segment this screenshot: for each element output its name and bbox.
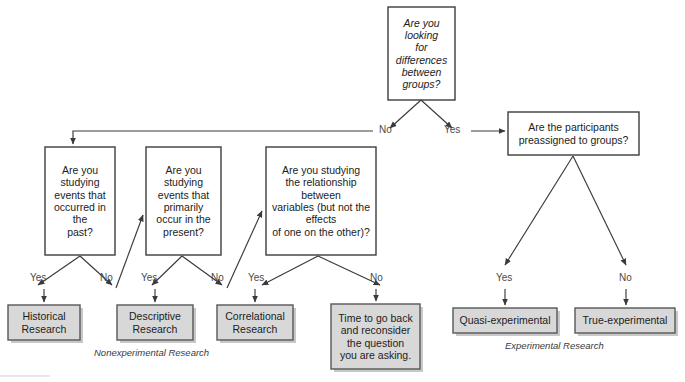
- edge-label-preassigned-no: No: [619, 272, 632, 283]
- edge-label-root-no: No: [379, 124, 392, 135]
- edge-label-correlational-no: No: [370, 272, 383, 283]
- edge-root-to-no: [390, 100, 421, 128]
- correlational-question-box: [266, 147, 376, 255]
- descriptive-research-box: [117, 305, 193, 340]
- edge-label-descriptive-yes: Yes: [141, 272, 157, 283]
- quasi-experimental-box: [453, 308, 557, 333]
- edge-label-historical-no: No: [100, 272, 113, 283]
- edge-preassigned-yes: [505, 156, 573, 265]
- edge-label-root-yes: Yes: [444, 124, 460, 135]
- root-question-box: [388, 7, 455, 100]
- correlational-research-box: [217, 305, 293, 340]
- group-label-nonexperimental: Nonexperimental Research: [94, 347, 209, 358]
- edge-correlational-yes: [262, 256, 318, 285]
- edge-label-preassigned-yes: Yes: [496, 272, 512, 283]
- edge-label-descriptive-no: No: [211, 272, 224, 283]
- edge-preassigned-no: [573, 156, 626, 265]
- true-experimental-box: [575, 308, 675, 333]
- flowchart-vector-layer: [0, 0, 685, 382]
- edge-label-historical-yes: Yes: [30, 272, 46, 283]
- edge-no-to-historical: [73, 131, 373, 144]
- historical-research-box: [8, 305, 80, 340]
- group-label-experimental: Experimental Research: [505, 340, 604, 351]
- reconsider-note-box: [331, 304, 420, 369]
- descriptive-question-box: [146, 147, 221, 255]
- flowchart-canvas: Are youlookingfordifferencesbetweengroup…: [0, 0, 685, 382]
- preassigned-question-box: [508, 112, 639, 155]
- edge-historical-no-to-descriptive: [116, 215, 143, 288]
- edge-label-correlational-yes: Yes: [248, 272, 264, 283]
- historical-question-box: [45, 147, 115, 255]
